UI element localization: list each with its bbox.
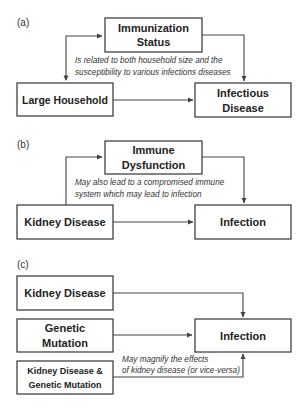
panel-b-note-line1: May also lead to a compromised immune bbox=[75, 178, 225, 187]
genetic-mutation-box: Genetic Mutation bbox=[17, 319, 113, 352]
immune-dysfunction-label-line1: Immune bbox=[132, 144, 174, 156]
infection-box-b: Infection bbox=[195, 205, 291, 239]
combined-label-line1: Kidney Disease & bbox=[27, 366, 103, 376]
infection-label-b: Infection bbox=[220, 216, 266, 228]
kidney-disease-box-b: Kidney Disease bbox=[17, 205, 113, 239]
panel-a: (a) Immunization Status Is related to bo… bbox=[17, 17, 291, 117]
genetic-mutation-label-line1: Genetic bbox=[45, 322, 85, 334]
immunization-status-label-line1: Immunization bbox=[118, 22, 189, 34]
combined-label-line2: Genetic Mutation bbox=[28, 380, 101, 390]
immunization-status-box: Immunization Status bbox=[105, 18, 202, 52]
infectious-disease-label-line2: Disease bbox=[222, 102, 264, 114]
large-household-label: Large Household bbox=[22, 94, 108, 106]
kidney-disease-label-c: Kidney Disease bbox=[24, 287, 105, 299]
infectious-disease-label-line1: Infectious bbox=[217, 87, 269, 99]
panel-c-label: (c) bbox=[17, 259, 29, 270]
genetic-mutation-label-line2: Mutation bbox=[42, 337, 88, 349]
infection-box-c: Infection bbox=[195, 319, 291, 352]
panel-c-note-line2: of kidney disease (or vice-versa) bbox=[122, 366, 240, 375]
immune-dysfunction-label-line2: Dysfunction bbox=[122, 159, 186, 171]
infectious-disease-box: Infectious Disease bbox=[195, 83, 291, 117]
combined-box: Kidney Disease & Genetic Mutation bbox=[17, 361, 113, 394]
kidney-disease-box-c: Kidney Disease bbox=[17, 276, 113, 310]
large-household-box: Large Household bbox=[17, 83, 113, 116]
panel-a-note-line2: susceptibility to various infections dis… bbox=[75, 68, 231, 77]
diagram-canvas: (a) Immunization Status Is related to bo… bbox=[0, 0, 308, 414]
immune-dysfunction-box: Immune Dysfunction bbox=[105, 141, 202, 174]
panel-a-label: (a) bbox=[17, 17, 29, 28]
infection-label-c: Infection bbox=[220, 330, 266, 342]
panel-a-note-line1: Is related to both household size and th… bbox=[75, 56, 223, 65]
immunization-status-label-line2: Status bbox=[137, 36, 171, 48]
kidney-disease-label-b: Kidney Disease bbox=[24, 216, 105, 228]
panel-b-note-line2: system which may lead to infection bbox=[75, 190, 202, 199]
panel-c: (c) Kidney Disease Genetic Mutation Kidn… bbox=[17, 259, 291, 394]
panel-c-note-line1: May magnify the effects bbox=[122, 355, 208, 364]
arrow-kidney-to-infection-c bbox=[113, 293, 243, 317]
panel-b-label: (b) bbox=[17, 139, 29, 150]
panel-b: (b) Immune Dysfunction May also lead to … bbox=[17, 139, 291, 239]
